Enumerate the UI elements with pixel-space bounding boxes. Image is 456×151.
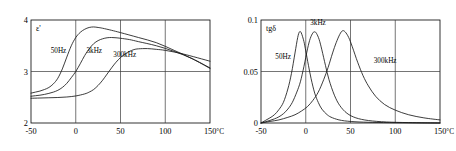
- xtick-label-3: 100: [389, 127, 401, 136]
- xtick-label-3: 100: [159, 127, 171, 136]
- permittivity-chart-svg: 234-50050100150°Cε'50Hz3kHz300kHz: [0, 0, 228, 151]
- xtick-label-2: 50: [346, 127, 354, 136]
- yaxis-name: tgδ: [266, 24, 276, 33]
- series-label-3khz: 3kHz: [86, 47, 102, 55]
- loss-tangent-chart-svg: 00.050.1-50050100150°Ctgδ50Hz3kHz300kHz: [228, 0, 456, 151]
- chart-panel-permittivity: 234-50050100150°Cε'50Hz3kHz300kHz: [0, 0, 228, 151]
- series-label-3khz: 3kHz: [310, 19, 326, 27]
- xtick-label-0: -50: [25, 127, 36, 136]
- series-label-50hz: 50Hz: [51, 47, 67, 55]
- xtick-label-2: 50: [116, 127, 124, 136]
- xaxis-unit: °C: [216, 128, 224, 136]
- chart-panel-loss-tangent: 00.050.1-50050100150°Ctgδ50Hz3kHz300kHz: [228, 0, 456, 151]
- xtick-label-1: 0: [304, 127, 308, 136]
- ytick-label-1: 3: [24, 68, 28, 77]
- ytick-label-2: 4: [24, 16, 29, 25]
- xtick-label-1: 0: [74, 127, 78, 136]
- series-label-50hz: 50Hz: [275, 53, 291, 61]
- ytick-label-1: 0.05: [243, 68, 258, 77]
- xtick-label-4: 150°C: [204, 127, 224, 136]
- yaxis-name: ε': [36, 24, 41, 33]
- xaxis-unit: °C: [446, 128, 454, 136]
- xtick-value: 150: [204, 127, 216, 136]
- series-label-300khz: 300kHz: [374, 57, 397, 65]
- xtick-value: 150: [434, 127, 446, 136]
- series-label-300khz: 300kHz: [113, 51, 136, 59]
- xtick-label-0: -50: [255, 127, 266, 136]
- ytick-label-2: 0.1: [248, 16, 258, 25]
- xtick-label-4: 150°C: [434, 127, 454, 136]
- figure-container: 234-50050100150°Cε'50Hz3kHz300kHz 00.050…: [0, 0, 456, 151]
